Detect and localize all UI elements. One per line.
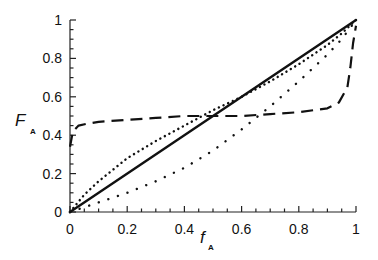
series-group bbox=[70, 20, 356, 212]
y-tick-label: 0.6 bbox=[43, 89, 63, 105]
y-axis-label-main: F bbox=[15, 111, 27, 130]
x-tick-label: 1 bbox=[352, 221, 360, 237]
x-axis-label-subscript: A bbox=[208, 243, 214, 252]
x-tick-label: 0.6 bbox=[232, 221, 252, 237]
y-tick-label: 0 bbox=[54, 204, 62, 220]
series-dashed bbox=[70, 26, 356, 147]
x-tick-label: 0.8 bbox=[289, 221, 309, 237]
x-tick-label: 0 bbox=[66, 221, 74, 237]
x-tick-label: 0.2 bbox=[117, 221, 137, 237]
y-tick-label: 0.4 bbox=[43, 127, 63, 143]
y-tick-label: 0.2 bbox=[43, 166, 63, 182]
x-tick-label: 0.4 bbox=[175, 221, 195, 237]
x-axis-label-main: f bbox=[200, 228, 207, 247]
y-tick-label: 1 bbox=[54, 12, 62, 28]
copolymer-composition-chart: 00.20.40.60.8100.20.40.60.81 F A f A bbox=[0, 0, 378, 260]
x-axis-label: f A bbox=[200, 228, 214, 252]
y-axis-label: F A bbox=[15, 111, 36, 136]
y-axis-label-subscript: A bbox=[30, 127, 36, 136]
y-tick-label: 0.8 bbox=[43, 50, 63, 66]
